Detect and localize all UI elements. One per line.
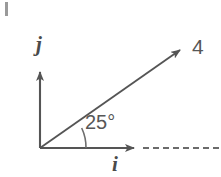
vector-diagram-canvas	[0, 0, 221, 177]
j-unit-vector-label: j	[36, 34, 42, 55]
vector-diagram-figure: j i 4 25°	[0, 0, 221, 177]
resultant-vector-arrow	[40, 50, 180, 148]
i-unit-vector-label: i	[112, 154, 118, 175]
angle-measure-label: 25°	[85, 112, 115, 132]
vector-magnitude-label: 4	[192, 36, 204, 57]
